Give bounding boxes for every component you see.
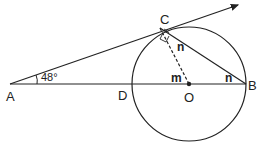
label-o: O [184,90,194,105]
label-a: A [6,89,15,104]
label-n-c: n [177,40,184,54]
label-c: C [160,12,169,27]
label-d: D [118,88,127,103]
label-n-b: n [225,71,232,85]
center-point-o [187,82,191,86]
angle-arc-a [36,75,37,84]
label-b: B [248,78,257,93]
label-angle-a: 48° [41,71,58,83]
geometry-diagram: A 48° D O B C n n m [0,0,264,151]
label-m: m [171,71,182,85]
